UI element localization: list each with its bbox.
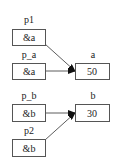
node-value: 50	[87, 66, 97, 77]
node-b: b 30	[76, 90, 110, 122]
node-p_a: p_a &a	[13, 49, 46, 80]
node-p_b: p_b &b	[13, 90, 46, 122]
node-value: &a	[23, 32, 36, 43]
node-label: p_a	[22, 49, 37, 60]
node-value: &b	[23, 143, 36, 154]
node-p1: p1 &a	[13, 14, 46, 46]
node-label: a	[91, 49, 96, 60]
node-p2: p2 &b	[13, 125, 46, 157]
edge-p1-to-a	[45, 44, 75, 71]
node-label: b	[91, 90, 96, 101]
pointer-diagram: p1 &a p_a &a a 50 p_b &b b 30 p2 &b	[0, 0, 122, 165]
node-value: &b	[23, 108, 36, 119]
node-label: p1	[24, 14, 34, 25]
node-value: 30	[87, 108, 97, 119]
node-label: p2	[24, 125, 34, 136]
node-label: p_b	[22, 90, 37, 101]
node-value: &a	[23, 66, 36, 77]
edge-p2-to-b	[45, 113, 75, 140]
node-a: a 50	[76, 49, 110, 80]
